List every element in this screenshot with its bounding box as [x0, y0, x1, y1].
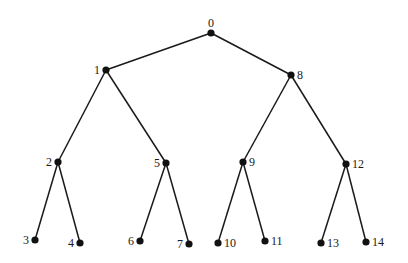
- tree-node-4: 4: [68, 236, 84, 250]
- tree-node-7: 7: [177, 237, 193, 251]
- tree-node-13: 13: [317, 236, 339, 250]
- node-dot: [162, 159, 169, 166]
- edge-2-4: [58, 162, 80, 243]
- edge-8-9: [243, 75, 291, 162]
- edge-0-1: [106, 33, 211, 70]
- node-label: 1: [94, 63, 100, 77]
- node-label: 8: [297, 68, 303, 82]
- node-label: 3: [23, 233, 29, 247]
- node-dot: [76, 239, 83, 246]
- node-dot: [362, 238, 369, 245]
- edge-5-6: [140, 163, 166, 241]
- node-dot: [207, 29, 214, 36]
- node-label: 4: [68, 236, 74, 250]
- node-dot: [102, 66, 109, 73]
- edge-5-7: [166, 163, 189, 244]
- node-label: 12: [352, 157, 364, 171]
- tree-node-0: 0: [207, 16, 214, 37]
- node-label: 0: [208, 16, 214, 30]
- tree-edges: [35, 33, 366, 244]
- edge-1-5: [106, 70, 166, 163]
- node-label: 13: [327, 236, 339, 250]
- node-label: 2: [46, 155, 52, 169]
- node-dot: [136, 237, 143, 244]
- node-dot: [54, 158, 61, 165]
- edge-8-12: [291, 75, 346, 164]
- node-dot: [239, 158, 246, 165]
- node-label: 11: [271, 234, 283, 248]
- tree-diagram: 01825912346710111314: [0, 0, 408, 263]
- node-dot: [214, 239, 221, 246]
- node-dot: [261, 237, 268, 244]
- node-label: 10: [224, 236, 236, 250]
- edge-12-14: [346, 164, 366, 242]
- edge-9-10: [218, 162, 243, 243]
- edge-0-8: [211, 33, 291, 75]
- tree-node-11: 11: [261, 234, 282, 248]
- node-label: 7: [177, 237, 183, 251]
- node-label: 9: [249, 155, 255, 169]
- node-dot: [317, 239, 324, 246]
- tree-node-1: 1: [94, 63, 110, 77]
- node-label: 5: [154, 156, 160, 170]
- tree-node-8: 8: [287, 68, 303, 82]
- node-dot: [185, 240, 192, 247]
- tree-node-12: 12: [342, 157, 364, 171]
- node-dot: [287, 71, 294, 78]
- edge-9-11: [243, 162, 265, 241]
- edge-1-2: [58, 70, 106, 162]
- edge-12-13: [321, 164, 346, 243]
- node-label: 6: [128, 234, 134, 248]
- node-dot: [31, 236, 38, 243]
- node-label: 14: [372, 235, 384, 249]
- tree-node-10: 10: [214, 236, 236, 250]
- edge-2-3: [35, 162, 58, 240]
- node-dot: [342, 160, 349, 167]
- tree-node-14: 14: [362, 235, 384, 249]
